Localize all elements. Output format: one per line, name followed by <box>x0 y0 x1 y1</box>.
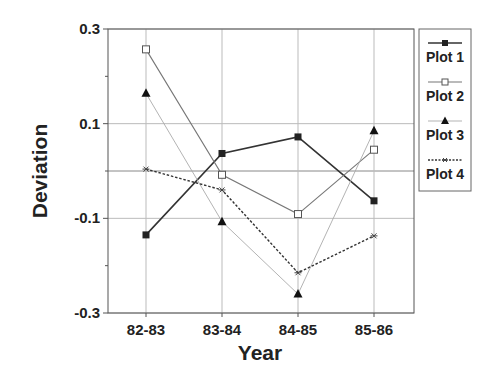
open-square-marker <box>371 146 378 153</box>
open-square-marker <box>143 46 150 53</box>
y-tick-label: 0.3 <box>79 20 100 37</box>
open-square-marker <box>219 171 226 178</box>
legend-item: Plot 1 <box>426 40 464 65</box>
x-axis: 82-8383-8484-8585-86 <box>127 313 393 338</box>
triangle-marker <box>142 88 151 97</box>
line-chart: 0.30.1-0.1-0.3 82-8383-8484-8585-86 Devi… <box>0 0 494 375</box>
series-plot-2 <box>143 46 378 218</box>
legend-label: Plot 1 <box>426 49 464 65</box>
filled-square-marker <box>295 133 302 140</box>
x-tick-label: 83-84 <box>203 321 242 338</box>
y-axis: 0.30.1-0.1-0.3 <box>74 20 108 321</box>
legend: Plot 1Plot 2Plot 3Plot 4 <box>419 29 471 191</box>
filled-square-marker <box>219 150 226 157</box>
filled-square-marker <box>371 197 378 204</box>
triangle-marker <box>370 126 379 134</box>
x-axis-title: Year <box>238 341 282 364</box>
data-series <box>142 46 379 298</box>
series-plot-1 <box>143 133 378 238</box>
legend-label: Plot 2 <box>426 88 464 104</box>
open-square-marker <box>442 79 448 85</box>
x-tick-label: 85-86 <box>355 321 393 338</box>
y-tick-label: -0.1 <box>74 209 100 226</box>
series-plot-4 <box>143 167 378 276</box>
series-line <box>146 49 374 214</box>
legend-label: Plot 4 <box>426 166 464 182</box>
series-line <box>146 169 374 273</box>
y-tick-label: -0.3 <box>74 304 100 321</box>
y-axis-title: Deviation <box>28 124 51 219</box>
x-tick-label: 84-85 <box>279 321 317 338</box>
x-tick-label: 82-83 <box>127 321 165 338</box>
series-plot-3 <box>142 88 379 297</box>
filled-square-marker <box>143 231 150 238</box>
legend-label: Plot 3 <box>426 127 464 143</box>
filled-square-marker <box>442 40 448 46</box>
grid-lines <box>108 29 414 313</box>
triangle-marker <box>294 289 303 298</box>
y-tick-label: 0.1 <box>79 115 100 132</box>
open-square-marker <box>295 211 302 218</box>
